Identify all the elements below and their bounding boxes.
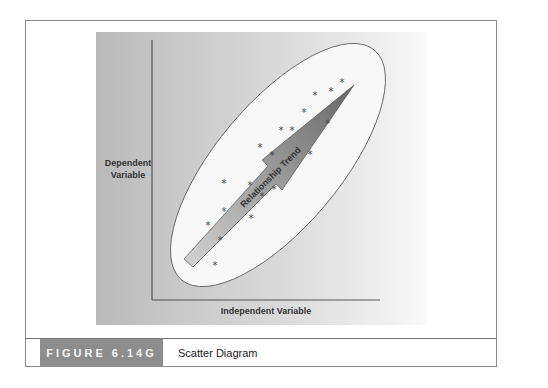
data-point: * xyxy=(206,220,211,231)
data-point: * xyxy=(222,178,227,189)
y-axis-label-line1: Dependent xyxy=(100,157,156,169)
data-point: * xyxy=(258,142,263,153)
data-point: * xyxy=(249,213,254,224)
figure-title: Scatter Diagram xyxy=(178,339,257,367)
data-point: * xyxy=(329,86,334,97)
data-point: * xyxy=(270,150,275,161)
data-point: * xyxy=(222,206,227,217)
data-point: * xyxy=(248,180,253,191)
x-axis-label: Independent Variable xyxy=(152,306,380,316)
data-point: * xyxy=(218,235,223,246)
data-point: * xyxy=(313,90,318,101)
figure-number-tag: FIGURE 6.14G xyxy=(40,339,163,367)
data-point: * xyxy=(308,149,313,160)
data-point: * xyxy=(302,107,307,118)
data-point: * xyxy=(260,191,265,202)
data-point: * xyxy=(326,118,331,129)
data-point: * xyxy=(279,125,284,136)
y-axis-label: Dependent Variable xyxy=(100,157,156,181)
data-point: * xyxy=(272,184,277,195)
data-point: * xyxy=(213,260,218,271)
y-axis-label-line2: Variable xyxy=(100,169,156,181)
data-point: * xyxy=(290,125,295,136)
scatter-diagram: Relationship Trend ******************* xyxy=(0,0,548,388)
data-point: * xyxy=(340,77,345,88)
